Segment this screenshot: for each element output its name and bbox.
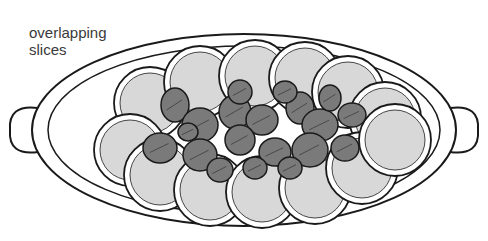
dish-illustration bbox=[0, 0, 488, 241]
